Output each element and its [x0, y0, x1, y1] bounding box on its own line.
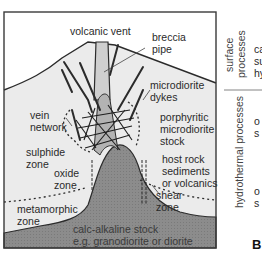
- side-label-surface: surface: [224, 38, 235, 72]
- label-breccia-pipe-2: pipe: [152, 44, 172, 55]
- side-partial-5: s: [254, 128, 259, 139]
- side-partial-1: ca: [254, 44, 262, 55]
- label-host-rock-2: sediments: [162, 166, 210, 177]
- label-oxide-zone-2: zone: [54, 180, 77, 191]
- label-breccia-pipe-1: breccia: [152, 32, 186, 43]
- side-partial-6: o: [254, 186, 260, 197]
- side-partial-3: hy: [254, 68, 262, 79]
- label-shear-zone-1: shear: [156, 190, 182, 201]
- label-calc-alkaline-1: calc-alkaline stock: [73, 224, 158, 235]
- label-metamorphic-zone-2: zone: [17, 216, 40, 227]
- label-calc-alkaline-2: e.g. granodiorite or diorite: [73, 236, 193, 247]
- label-sulphide-zone-1: sulphide: [26, 147, 65, 158]
- label-volcanic-vent: volcanic vent: [70, 26, 131, 37]
- label-microdiorite-dykes-1: microdiorite: [150, 80, 204, 91]
- side-label-hydrothermal: hydrothermal processes: [234, 96, 245, 208]
- label-host-rock-3: or volcanics: [162, 178, 217, 189]
- label-porphyritic-3: stock: [160, 136, 185, 147]
- label-oxide-zone-1: oxide: [54, 168, 79, 179]
- side-partial-7: s: [254, 198, 259, 209]
- label-metamorphic-zone-1: metamorphic: [17, 204, 78, 215]
- side-partial-4: o: [254, 116, 260, 127]
- label-microdiorite-dykes-2: dykes: [150, 92, 177, 103]
- label-shear-zone-2: zone: [156, 202, 179, 213]
- label-vein-network-1: vein: [30, 110, 49, 121]
- label-porphyritic-2: microdiorite: [160, 124, 214, 135]
- porphyry-deposit-diagram: volcanic vent breccia pipe microdiorite …: [0, 0, 262, 253]
- label-sulphide-zone-2: zone: [26, 159, 49, 170]
- label-porphyritic-1: porphyritic: [160, 112, 208, 123]
- label-vein-network-2: network: [30, 122, 67, 133]
- side-label-processes: processes: [236, 30, 247, 78]
- side-partial-2: su: [254, 56, 262, 67]
- panel-letter-b: B: [252, 237, 261, 252]
- label-host-rock-1: host rock: [162, 154, 205, 165]
